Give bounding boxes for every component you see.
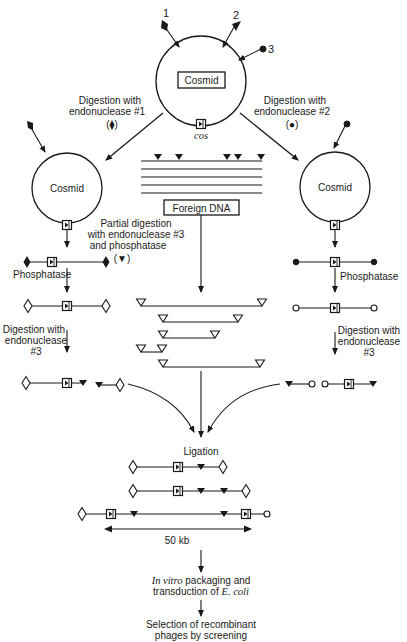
cos-site-icon (345, 380, 354, 389)
right-cosmid-label: Cosmid (318, 182, 352, 193)
ligation-label: Ligation (183, 446, 218, 457)
left-branch: Cosmid Phosphatase Digestion with endonu… (3, 121, 124, 392)
open-diamond-icon (129, 461, 137, 474)
cos-site-icon (331, 258, 340, 267)
cos-label: cos (194, 130, 208, 141)
top-cosmid: Cosmid cos 1 2 3 (156, 7, 274, 141)
center-branch: Foreign DNA Partial digestion with endon… (87, 154, 267, 437)
restriction-site-triangle-icon (257, 154, 265, 160)
cos-site-icon (63, 379, 72, 388)
selection-label-line1: Selection of recombinant (146, 619, 256, 630)
restriction-site-triangle-icon (175, 154, 183, 160)
open-triangle-icon (158, 345, 167, 352)
open-diamond-icon (116, 379, 124, 392)
svg-text:endonuclease #2: endonuclease #2 (254, 106, 331, 117)
open-triangle-icon (258, 299, 267, 306)
svg-text:endonuclease #1: endonuclease #1 (69, 106, 146, 117)
open-diamond-icon (24, 300, 32, 313)
open-triangle-icon (159, 315, 168, 322)
cosmid-cloning-diagram: Cosmid cos 1 2 3 Digestion with endonucl… (0, 0, 407, 642)
cos-site-icon (174, 487, 183, 496)
cosmid-label: Cosmid (185, 75, 219, 86)
svg-text:and phosphatase: and phosphatase (90, 240, 167, 251)
final-steps: In vitro packaging and transduction of E… (146, 550, 256, 641)
cos-site-icon (63, 302, 72, 311)
right-cos-site-icon (331, 221, 340, 230)
svg-text:Digestion with: Digestion with (264, 95, 326, 106)
svg-text:Partial digestion: Partial digestion (100, 218, 171, 229)
scale-arrow-right-icon (244, 526, 252, 533)
cos-site-icon (48, 258, 57, 267)
circle-symbol-label: (●) (286, 119, 299, 130)
svg-text:#3: #3 (30, 346, 42, 357)
open-triangle-icon (159, 360, 168, 367)
open-diamond-icon (102, 300, 110, 313)
left-curve-arrow (128, 384, 194, 432)
site-number-2: 3 (268, 43, 274, 55)
packaging-label: In vitro packaging and (151, 575, 251, 586)
open-circle-icon (322, 381, 328, 387)
cos-site-icon (197, 120, 206, 129)
filled-diamond-icon (103, 256, 110, 268)
right-site-circle-icon (344, 121, 350, 127)
open-triangle-icon (137, 345, 146, 352)
open-triangle-icon (234, 315, 243, 322)
site-3-triangle-icon (232, 21, 241, 31)
left-cos-site-icon (63, 221, 72, 230)
site-1-diamond-icon (161, 20, 168, 31)
site-number-1: 1 (163, 7, 169, 19)
open-circle-icon (264, 511, 270, 517)
svg-text:endonuclease: endonuclease (5, 335, 68, 346)
cos-site-icon (174, 463, 183, 472)
filled-circle-icon (371, 259, 377, 265)
left-digestion-label: Digestion with endonuclease #1 (⧫) (69, 95, 146, 131)
foreign-dna-label: Foreign DNA (173, 203, 231, 214)
open-circle-icon (293, 305, 299, 311)
open-diamond-icon (219, 461, 227, 474)
restriction-site-triangle-icon (154, 154, 162, 160)
open-triangle-icon (137, 299, 146, 306)
svg-text:with endonuclease #3: with endonuclease #3 (87, 229, 185, 240)
svg-text:Digestion with: Digestion with (338, 325, 400, 336)
triangle-symbol-label: (▼) (114, 253, 131, 264)
svg-text:#3: #3 (363, 347, 375, 358)
left-phosphatase-label: Phosphatase (13, 269, 72, 280)
filled-diamond-icon (24, 256, 31, 268)
open-circle-icon (309, 381, 315, 387)
selection-label-line2: phages by screening (155, 630, 247, 641)
open-triangle-icon (256, 360, 265, 367)
open-triangle-icon (159, 331, 168, 338)
filled-circle-icon (293, 259, 299, 265)
cos-site-icon (242, 510, 251, 519)
right-curve-arrow (208, 384, 280, 432)
right-phosphatase-label: Phosphatase (340, 271, 399, 282)
open-triangle-icon (211, 331, 220, 338)
left-site-diamond-icon (27, 121, 33, 130)
scale-label: 50 kb (165, 535, 190, 546)
svg-text:endonuclease: endonuclease (338, 336, 401, 347)
open-diamond-icon (129, 485, 137, 498)
diamond-symbol-label: (⧫) (106, 119, 118, 131)
ligation-section: Ligation 50 kb (78, 446, 270, 546)
svg-text:Digestion with: Digestion with (3, 324, 65, 335)
cos-site-icon (331, 304, 340, 313)
open-circle-icon (371, 305, 377, 311)
restriction-site-triangle-icon (223, 154, 231, 160)
site-number-3: 2 (233, 9, 239, 21)
right-digestion-label: Digestion with endonuclease #2 (●) (254, 95, 331, 130)
transduction-label: transduction of E. coli (153, 586, 249, 597)
restriction-site-triangle-icon (234, 154, 242, 160)
right-branch: Cosmid Phosphatase Digestion with endonu… (285, 121, 401, 389)
site-2-circle-icon (260, 46, 266, 52)
open-diamond-icon (242, 485, 250, 498)
svg-text:Digestion with: Digestion with (79, 95, 141, 106)
open-diamond-icon (22, 377, 30, 390)
left-cosmid-label: Cosmid (50, 183, 84, 194)
scale-arrow-left-icon (104, 526, 112, 533)
cos-site-icon (107, 510, 116, 519)
open-diamond-icon (78, 508, 86, 521)
